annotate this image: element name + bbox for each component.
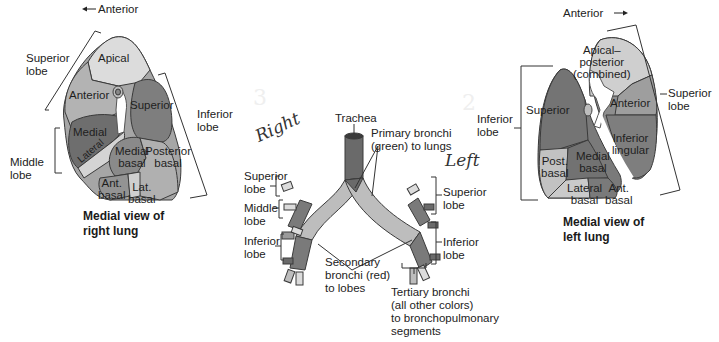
handwritten-left: Left (445, 150, 479, 170)
apical-posterior-label: Apical– posterior (combined) (573, 44, 631, 80)
left-anterior-arrow (614, 11, 628, 16)
left-anterior-label: Anterior (563, 7, 603, 20)
left-ant-basal-label: Ant. basal (605, 182, 633, 206)
ant-basal-label: Ant. basal (98, 177, 126, 201)
tree-right-middle-lobe-label: Middle lobe (244, 202, 278, 228)
medial-basal-label: Medial basal (115, 145, 149, 169)
bracket-right-middle (279, 200, 283, 218)
left-superior-segment-label: Superior (526, 104, 569, 116)
tree-left-superior-lobe-label: Superior lobe (443, 186, 486, 212)
bracket-middle-lobe (55, 128, 62, 173)
tree-right-superior-lobe-label: Superior lobe (244, 170, 287, 196)
inferior-lingular-label: Inferior lingular (612, 132, 649, 156)
lateral-basal-label: Lateral basal (567, 182, 602, 206)
right-lung-caption: Medial view of right lung (83, 209, 164, 239)
tree-right-inferior-lobe-label: Inferior lobe (244, 235, 280, 261)
left-anterior-segment-label: Anterior (610, 97, 650, 109)
medial-label: Medial (73, 126, 107, 138)
left-medial-basal-label: Medial basal (576, 150, 610, 174)
tree-left-inferior-lobe-label: Inferior lobe (443, 236, 479, 262)
left-superior-lobe-label: Superior lobe (668, 87, 711, 113)
right-anterior-label: Anterior (98, 3, 138, 16)
lat-basal-label: Lat. basal (128, 181, 156, 205)
apical-label: Apical (98, 52, 129, 64)
right-anterior-arrow (82, 7, 96, 12)
right-middle-lobe-label: Middle lobe (10, 156, 44, 182)
faint-number-3: 3 (253, 85, 267, 110)
faint-number-2: 2 (462, 90, 476, 115)
right-inferior-lobe-label: Inferior lobe (197, 108, 233, 134)
anterior-label: Anterior (69, 89, 109, 101)
right-superior-lobe-label: Superior lobe (26, 52, 69, 78)
trachea-label: Trachea (335, 112, 377, 125)
left-lung-caption: Medial view of left lung (563, 215, 644, 245)
primary-bronchi-label: Primary bronchi (green) to lungs (371, 127, 452, 153)
leader-primary-2 (372, 146, 378, 196)
left-inferior-lobe-label: Inferior lobe (477, 113, 513, 139)
tertiary-bronchi-label: Tertiary bronchi (all other colors) to b… (391, 286, 499, 338)
posterior-basal-label: Posterior basal (145, 145, 191, 169)
secondary-bronchi-label: Secondary bronchi (red) to lobes (325, 256, 390, 295)
superior-label: Superior (130, 99, 173, 111)
post-basal-label: Post. basal (541, 155, 569, 179)
